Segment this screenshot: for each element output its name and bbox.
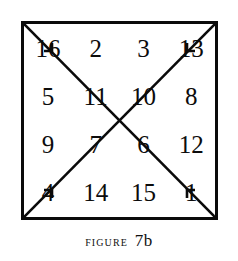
magic-cell-r3c4: 12 <box>167 121 215 169</box>
magic-cell-r2c2: 11 <box>72 72 120 120</box>
magic-square-grid: 16 2 3 13 5 11 10 8 9 7 6 12 4 14 15 1 <box>24 24 215 217</box>
magic-cell-r4c2: 14 <box>72 169 120 217</box>
figure-caption: FIGURE7b <box>0 231 238 251</box>
magic-cell-r2c4: 8 <box>167 72 215 120</box>
magic-cell-r2c1: 5 <box>24 72 72 120</box>
caption-word: FIGURE <box>85 234 128 249</box>
magic-cell-r4c4: 1 <box>167 169 215 217</box>
magic-cell-r1c4: 13 <box>167 24 215 72</box>
caption-number: 7b <box>135 231 153 250</box>
magic-cell-r3c1: 9 <box>24 121 72 169</box>
magic-cell-r3c3: 6 <box>120 121 168 169</box>
magic-cell-r4c1: 4 <box>24 169 72 217</box>
magic-cell-r1c2: 2 <box>72 24 120 72</box>
magic-cell-r4c3: 15 <box>120 169 168 217</box>
magic-cell-r1c3: 3 <box>120 24 168 72</box>
magic-cell-r2c3: 10 <box>120 72 168 120</box>
magic-square-panel: 16 2 3 13 5 11 10 8 9 7 6 12 4 14 15 1 <box>21 21 218 220</box>
figure-7b: 16 2 3 13 5 11 10 8 9 7 6 12 4 14 15 1 <box>0 0 238 261</box>
magic-cell-r1c1: 16 <box>24 24 72 72</box>
magic-cell-r3c2: 7 <box>72 121 120 169</box>
